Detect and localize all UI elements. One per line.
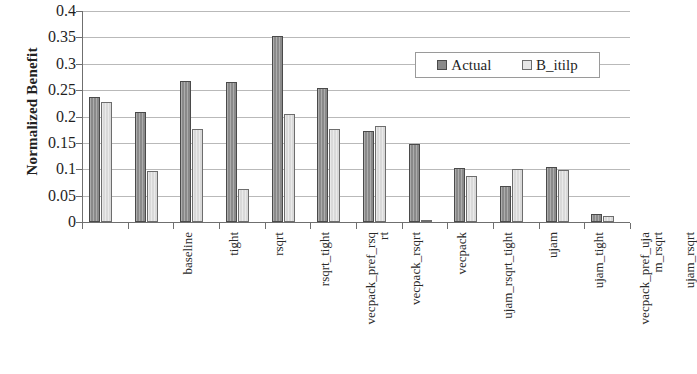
- bar-b-itilp: [329, 129, 340, 222]
- x-axis-category-label: vecpack_pref_rsqrt: [364, 232, 390, 372]
- bar-group: [219, 11, 265, 222]
- y-axis-tick-label: 0.3: [30, 56, 76, 72]
- x-axis-tick-mark: [128, 223, 129, 229]
- x-axis-category-label: ujam_rsqrt: [683, 232, 696, 372]
- bar-b-itilp: [512, 169, 523, 222]
- legend-swatch-b-itilp-icon: [522, 60, 532, 70]
- legend-label-actual: Actual: [451, 57, 491, 74]
- x-axis-category-label: vecpack: [455, 232, 468, 372]
- bar-b-itilp: [558, 170, 569, 222]
- y-axis-tick-label: 0.05: [30, 188, 76, 204]
- x-axis-tick-mark: [356, 223, 357, 229]
- x-axis-category-label: baseline: [181, 232, 194, 372]
- bar-b-itilp: [147, 171, 158, 222]
- bar-actual: [135, 112, 146, 222]
- x-axis-tick-mark: [402, 223, 403, 229]
- bar-group: [173, 11, 219, 222]
- x-axis-category-label: ujam_tight: [592, 232, 605, 372]
- bar-group: [265, 11, 311, 222]
- bar-actual: [226, 82, 237, 222]
- x-axis-category-label: rsqrt_tight: [318, 232, 331, 372]
- bar-group: [356, 11, 402, 222]
- y-axis-tick-label: 0.15: [30, 135, 76, 151]
- bar-b-itilp: [375, 126, 386, 222]
- bar-group: [128, 11, 174, 222]
- x-axis-category-label: ujam_rsqrt_tight: [501, 232, 514, 372]
- y-axis-tick-label: 0.4: [30, 3, 76, 19]
- bar-actual: [272, 36, 283, 222]
- bar-b-itilp: [238, 189, 249, 222]
- y-axis-tick-label: 0: [30, 214, 76, 230]
- bar-group: [402, 11, 448, 222]
- x-axis-tick-mark: [310, 223, 311, 229]
- bar-actual: [500, 186, 511, 222]
- legend-swatch-actual-icon: [437, 60, 447, 70]
- x-axis-category-label: rsqrt: [272, 232, 285, 372]
- bar-group: [539, 11, 585, 222]
- x-axis-category-labels: baselinetightrsqrtrsqrt_tightvecpack_pre…: [82, 232, 630, 374]
- legend-label-b-itilp: B_itilp: [536, 57, 578, 74]
- bar-actual: [180, 81, 191, 222]
- bar-actual: [363, 131, 374, 222]
- x-axis-category-label: tight: [227, 232, 240, 372]
- x-axis-tick-mark: [447, 223, 448, 229]
- legend-entry-b-itilp: B_itilp: [522, 57, 578, 74]
- bar-group: [447, 11, 493, 222]
- x-axis-tick-mark: [539, 223, 540, 229]
- bar-group: [82, 11, 128, 222]
- bar-group: [584, 11, 630, 222]
- bar-group: [310, 11, 356, 222]
- bar-actual: [409, 144, 420, 222]
- x-axis-tick-mark: [493, 223, 494, 229]
- x-axis-tick-mark: [82, 223, 83, 229]
- x-axis-category-label: ujam: [546, 232, 559, 372]
- x-axis-category-label: vecpack_rsqrt: [409, 232, 422, 372]
- y-axis-tick-label: 0.2: [30, 109, 76, 125]
- bar-actual: [546, 167, 557, 222]
- bars-layer: [82, 11, 630, 222]
- bar-b-itilp: [466, 176, 477, 222]
- x-axis-tick-mark: [584, 223, 585, 229]
- bar-b-itilp: [192, 129, 203, 222]
- y-axis-tick-label: 0.35: [30, 29, 76, 45]
- x-axis-tick-mark: [219, 223, 220, 229]
- bar-actual: [317, 88, 328, 223]
- bar-group: [493, 11, 539, 222]
- y-axis-tick-label: 0.1: [30, 161, 76, 177]
- legend-entry-actual: Actual: [437, 57, 491, 74]
- bar-actual: [454, 168, 465, 222]
- bar-actual: [89, 97, 100, 222]
- y-axis-tick-labels: 0.40.350.30.250.20.150.10.050: [30, 0, 76, 374]
- x-axis-category-label: vecpack_pref_ujam_rsqrt: [638, 232, 664, 372]
- bar-b-itilp: [284, 114, 295, 222]
- x-axis-tick-mark: [265, 223, 266, 229]
- chart-legend: Actual B_itilp: [415, 52, 600, 78]
- y-axis-tick-label: 0.25: [30, 82, 76, 98]
- bar-b-itilp: [101, 102, 112, 222]
- x-axis-tick-mark: [173, 223, 174, 229]
- x-axis-tick-mark: [630, 223, 631, 229]
- bar-actual: [591, 214, 602, 222]
